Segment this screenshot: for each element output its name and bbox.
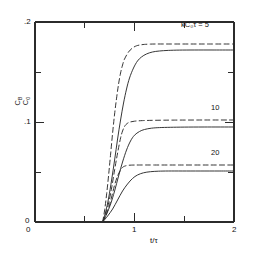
x-axis-label: t/τ (150, 236, 158, 245)
data-curves (103, 44, 234, 222)
curve-solid-20 (103, 171, 234, 222)
y-axis-label-numerator-sub: B (17, 96, 23, 100)
figure-container: 0 .1 .2 0 1 2 t/τ CB C0 kC₀τ = 5 10 20 (0, 0, 255, 256)
y-axis-label: CB C0 (14, 90, 32, 112)
y-tick-label-0-2: .2 (24, 18, 31, 26)
curve-dashed-20 (103, 165, 234, 222)
x-tick-label-2: 2 (232, 226, 236, 234)
x-tick-label-1: 1 (132, 226, 136, 234)
axis-frame (35, 22, 234, 222)
y-tick-label-0-1: .1 (24, 118, 31, 126)
x-tick-label-0: 0 (26, 226, 30, 234)
chart-plot-area (0, 0, 255, 256)
axis-ticks (35, 22, 234, 222)
curve-solid-5 (103, 50, 234, 222)
curve-annotation-10: 10 (211, 104, 219, 112)
y-axis-label-denominator: C (21, 100, 30, 105)
curve-solid-10 (103, 127, 234, 222)
curve-annotation-20: 20 (211, 149, 219, 157)
y-axis-label-denominator-sub: 0 (25, 97, 31, 100)
y-tick-label-0: 0 (25, 217, 29, 225)
curve-annotation-5: kC₀τ = 5 (181, 21, 209, 29)
